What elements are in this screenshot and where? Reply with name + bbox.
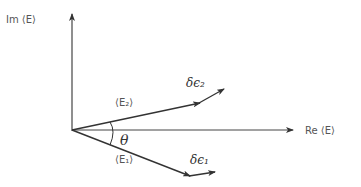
vector-e2 (72, 103, 200, 130)
re-axis-label: Re ⟨E⟩ (305, 125, 335, 136)
delta-epsilon-1-label: δϵ₁ (190, 153, 209, 167)
vector-e1 (72, 130, 190, 176)
vector-delta-epsilon-1 (189, 172, 215, 176)
angle-arc (110, 122, 113, 145)
theta-label: θ (120, 132, 129, 148)
vector-delta-epsilon-2 (199, 89, 224, 103)
im-axis-label: Im ⟨E⟩ (6, 14, 36, 25)
phasor-diagram: Im ⟨E⟩ Re ⟨E⟩ ⟨E₂⟩ ⟨E₁⟩ δϵ₂ δϵ₁ θ (0, 0, 361, 187)
delta-epsilon-2-label: δϵ₂ (186, 76, 205, 90)
e2-label: ⟨E₂⟩ (115, 97, 133, 108)
e1-label: ⟨E₁⟩ (115, 154, 133, 165)
